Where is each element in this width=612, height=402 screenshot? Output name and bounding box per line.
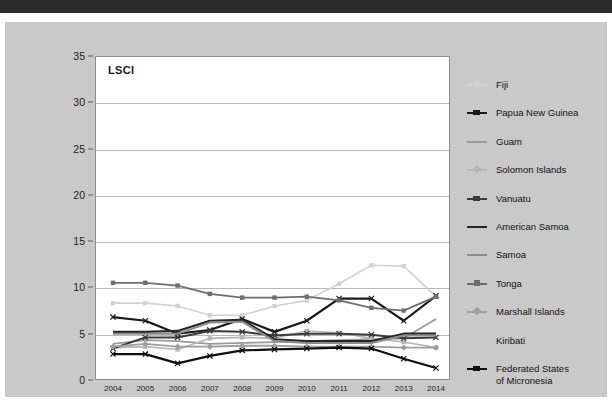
legend-item-fiji[interactable]: Fiji xyxy=(467,78,607,106)
x-tick-label: 2012 xyxy=(362,384,380,393)
legend-item-label: Guam xyxy=(496,135,522,148)
y-tick-label: 25 xyxy=(43,143,85,155)
series-marker xyxy=(111,301,115,305)
y-tick-label: 0 xyxy=(43,374,85,386)
legend-item-federated-states-of-micronesia[interactable]: Federated States of Micronesia xyxy=(467,362,607,390)
legend-item-label: Papua New Guinea xyxy=(496,106,578,119)
top-rule xyxy=(0,0,612,13)
legend-marker-icon xyxy=(467,163,487,177)
legend-item-label: Marshall Islands xyxy=(496,305,565,318)
legend-item-label: Tonga xyxy=(496,277,522,290)
x-tick-label: 2013 xyxy=(395,384,413,393)
legend-marker-icon xyxy=(467,135,487,149)
x-tick-label: 2011 xyxy=(330,384,347,393)
legend-marker-icon xyxy=(467,305,487,319)
y-tick-label: 10 xyxy=(43,281,85,293)
series-marker xyxy=(305,294,309,298)
series-marker xyxy=(111,281,115,285)
series-marker xyxy=(208,292,212,296)
x-tick-label: 2008 xyxy=(233,384,251,393)
legend-item-samoa[interactable]: Samoa xyxy=(467,248,607,276)
y-tick-mark xyxy=(88,56,93,57)
legend-item-label: Fiji xyxy=(496,78,508,91)
series-line xyxy=(113,296,436,334)
series-layer xyxy=(95,56,450,380)
legend-item-kiribati[interactable]: Kiribati xyxy=(467,334,607,362)
legend-item-label: Vanuatu xyxy=(496,192,531,205)
x-tick-label: 2004 xyxy=(104,384,122,393)
y-tick-label: 15 xyxy=(43,235,85,247)
series-marker xyxy=(175,283,179,287)
y-tick-mark xyxy=(88,287,93,288)
y-tick-mark xyxy=(88,194,93,195)
x-tick-label: 2006 xyxy=(169,384,187,393)
y-tick-label: 30 xyxy=(43,96,85,108)
series-marker xyxy=(434,294,438,298)
series-marker xyxy=(369,306,373,310)
y-tick-mark xyxy=(88,148,93,149)
legend-item-solomon-islands[interactable]: Solomon Islands xyxy=(467,163,607,191)
series-marker xyxy=(240,335,244,339)
x-tick-label: 2005 xyxy=(136,384,154,393)
x-tick-label: 2009 xyxy=(266,384,284,393)
legend-item-label: Kiribati xyxy=(496,334,525,347)
series-marker xyxy=(175,304,179,308)
y-tick-mark xyxy=(88,380,93,381)
series-line xyxy=(113,348,436,368)
legend-marker-icon xyxy=(467,362,487,376)
series-federated-states-of-micronesia xyxy=(110,345,438,371)
chart-legend: FijiPapua New GuineaGuamSolomon IslandsV… xyxy=(467,78,607,390)
series-marker xyxy=(208,313,212,317)
x-tick-label: 2007 xyxy=(201,384,219,393)
legend-marker-icon xyxy=(467,78,487,92)
legend-item-label: American Samoa xyxy=(496,220,569,233)
figure-panel: 05101520253035 LSCI 20042005200620072008… xyxy=(5,22,607,397)
legend-item-label: Solomon Islands xyxy=(496,163,566,176)
legend-item-tonga[interactable]: Tonga xyxy=(467,277,607,305)
y-tick-mark xyxy=(88,102,93,103)
x-tick-label: 2010 xyxy=(298,384,316,393)
legend-marker-icon xyxy=(467,248,487,262)
legend-item-label: Samoa xyxy=(496,248,526,261)
series-marker xyxy=(143,301,147,305)
legend-marker-icon xyxy=(467,106,487,120)
series-marker xyxy=(272,304,276,308)
series-marker xyxy=(208,336,212,340)
series-marker xyxy=(402,264,406,268)
y-tick-mark xyxy=(88,333,93,334)
legend-item-papua-new-guinea[interactable]: Papua New Guinea xyxy=(467,106,607,134)
legend-marker-icon xyxy=(467,192,487,206)
series-marker xyxy=(272,295,276,299)
series-marker xyxy=(240,295,244,299)
x-tick-label: 2014 xyxy=(427,384,445,393)
legend-marker-icon xyxy=(467,277,487,291)
series-marker xyxy=(143,281,147,285)
y-axis: 05101520253035 xyxy=(51,56,93,380)
series-marker xyxy=(369,263,373,267)
figure-page: 05101520253035 LSCI 20042005200620072008… xyxy=(0,0,612,402)
legend-item-marshall-islands[interactable]: Marshall Islands xyxy=(467,305,607,333)
legend-item-american-samoa[interactable]: American Samoa xyxy=(467,220,607,248)
y-tick-label: 5 xyxy=(43,328,85,340)
legend-item-guam[interactable]: Guam xyxy=(467,135,607,163)
y-tick-mark xyxy=(88,241,93,242)
x-axis: 2004200520062007200820092010201120122013… xyxy=(95,382,450,400)
series-marker xyxy=(401,344,407,350)
legend-item-vanuatu[interactable]: Vanuatu xyxy=(467,192,607,220)
legend-item-label: Federated States of Micronesia xyxy=(496,362,569,387)
legend-marker-icon xyxy=(467,334,487,348)
series-marker xyxy=(337,282,341,286)
series-marker xyxy=(337,298,341,302)
y-tick-label: 20 xyxy=(43,189,85,201)
series-marker xyxy=(402,308,406,312)
legend-marker-icon xyxy=(467,220,487,234)
y-tick-label: 35 xyxy=(43,50,85,62)
